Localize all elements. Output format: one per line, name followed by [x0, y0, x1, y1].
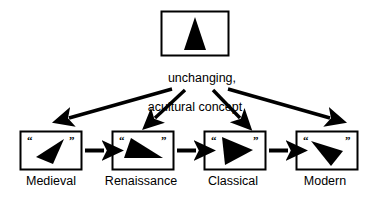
diagram-canvas: “ ” “ ” “ ” “ ” unchanging, acultural co…	[0, 0, 382, 204]
open-quote-modern: “	[303, 134, 309, 146]
open-quote-medieval: “	[27, 134, 33, 146]
concept-box	[162, 12, 229, 56]
era-label-classical: Classical	[185, 174, 281, 188]
close-quote-modern: ”	[345, 134, 351, 146]
close-quote-medieval: ”	[69, 134, 75, 146]
era-label-renaissance: Renaissance	[93, 174, 189, 188]
concept-caption-line1: unchanging,	[168, 71, 236, 85]
concept-caption: unchanging, acultural concept	[115, 57, 275, 143]
era-label-medieval: Medieval	[3, 174, 99, 188]
era-label-modern: Modern	[277, 174, 373, 188]
concept-caption-line2: acultural concept	[115, 100, 275, 114]
